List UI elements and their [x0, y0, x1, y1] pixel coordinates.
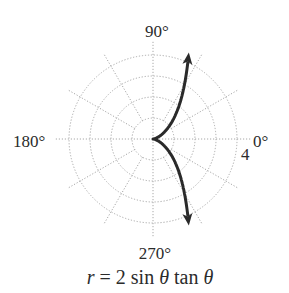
grid-spoke	[68, 90, 135, 129]
radial-tick-label: 4	[241, 145, 250, 164]
polar-chart: 90° 180° 0° 270° 4 r = 2 sin θ tan θ	[0, 0, 289, 293]
caption-r: r	[87, 266, 95, 288]
chart-caption: r = 2 sin θ tan θ	[87, 266, 214, 288]
grid-spoke	[104, 54, 143, 121]
angle-label-90: 90°	[145, 22, 169, 41]
caption-theta2: θ	[203, 266, 213, 288]
caption-eq: = 2 sin	[95, 266, 160, 288]
caption-theta1: θ	[159, 266, 169, 288]
angle-label-0: 0°	[253, 132, 268, 151]
angle-label-270: 270°	[139, 244, 171, 263]
grid-spoke	[104, 157, 143, 224]
grid-spoke	[68, 150, 135, 189]
caption-tan: tan	[169, 266, 203, 288]
angle-label-180: 180°	[13, 132, 45, 151]
curve-line	[153, 63, 188, 215]
